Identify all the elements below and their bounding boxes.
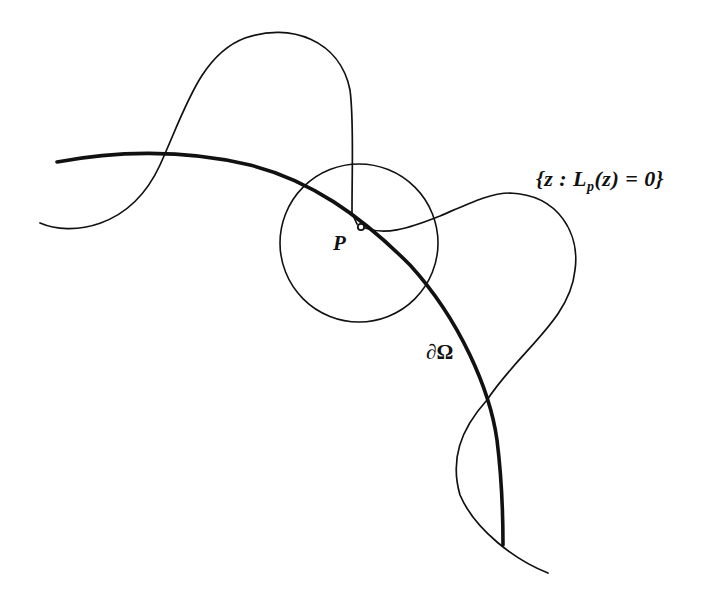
level-set-label-open: {z : L [536,166,587,191]
diagram-canvas [0,0,724,610]
point-p-label: P [333,231,346,256]
level-set-label-close: (z) = 0} [595,166,664,191]
boundary-label: ∂Ω [426,340,453,365]
circle [280,164,438,322]
level-set-label: {z : Lp(z) = 0} [536,166,664,195]
point-p-marker [358,224,364,230]
level-set-label-subscript: p [587,179,595,194]
